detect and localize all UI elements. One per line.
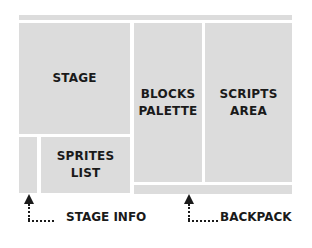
- blocks-palette-region: BLOCKS PALETTE: [134, 23, 202, 182]
- sprites-list-label: SPRITES LIST: [56, 148, 116, 182]
- stage-label: STAGE: [52, 70, 96, 87]
- stage-info-arrow-icon: [24, 194, 34, 204]
- backpack-callout: BACKPACK: [220, 210, 292, 224]
- backpack-arrow-icon: [184, 194, 194, 204]
- backpack-leader-horizontal: [188, 220, 218, 222]
- stage-info-leader-vertical: [28, 204, 30, 220]
- stage-info-region: [19, 137, 37, 193]
- scripts-area-region: SCRIPTS AREA: [205, 23, 292, 182]
- menu-bar-region: [19, 15, 292, 20]
- stage-region: STAGE: [19, 23, 130, 134]
- stage-info-callout: STAGE INFO: [66, 210, 146, 224]
- stage-info-leader-horizontal: [28, 220, 54, 222]
- blocks-palette-label: BLOCKS PALETTE: [138, 86, 198, 120]
- scripts-area-label: SCRIPTS AREA: [219, 86, 279, 120]
- sprites-list-region: SPRITES LIST: [41, 137, 130, 193]
- backpack-region: [134, 185, 292, 194]
- backpack-leader-vertical: [188, 204, 190, 220]
